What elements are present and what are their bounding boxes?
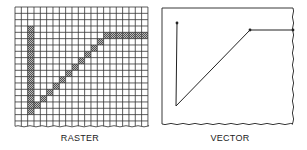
raster-panel [0,0,155,130]
vector-label: VECTOR [195,133,265,143]
vector-drawing [155,0,307,130]
raster-label: RASTER [45,133,115,143]
raster-grid [0,0,155,130]
vector-panel [155,0,307,130]
